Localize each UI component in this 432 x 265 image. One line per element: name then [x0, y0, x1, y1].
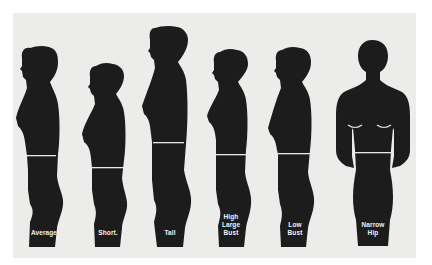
figure-average [16, 46, 63, 247]
label-high-large-bust: High Large Bust [222, 213, 240, 237]
figure-tall [142, 26, 191, 247]
figure-narrow-hip [336, 40, 410, 246]
figure-low-bust [268, 47, 314, 247]
label-tall: Tall [164, 229, 175, 237]
label-narrow-hip: Narrow Hip [362, 221, 385, 237]
label-short: Short. [98, 229, 117, 237]
figure-short [82, 63, 127, 247]
label-average: Average [31, 229, 57, 237]
label-low-bust: Low Bust [288, 221, 303, 237]
